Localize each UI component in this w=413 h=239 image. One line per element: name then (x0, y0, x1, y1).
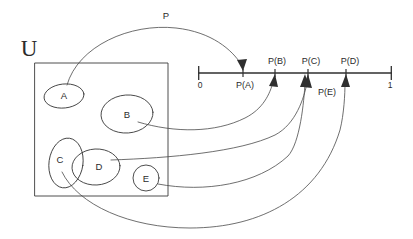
tick-label-pd: P(D) (341, 56, 360, 66)
set-label-b: B (124, 109, 130, 120)
set-label-a: A (61, 90, 68, 101)
set-label-e: E (143, 173, 149, 184)
tick-label-pe: P(E) (318, 87, 336, 97)
mapping-curve-d (111, 83, 307, 160)
set-label-d: D (96, 161, 103, 172)
tick-label-pb: P(B) (268, 56, 286, 66)
universe-label: U (21, 36, 38, 61)
axis-start-label: 0 (198, 80, 203, 90)
mapping-arrowhead-b (269, 74, 278, 87)
probability-mapping-diagram: U P A B C D E 0 1 P(A) P(B) P(C) P(D) P(… (0, 0, 413, 239)
map-label: P (163, 10, 169, 21)
axis-end-label: 1 (388, 80, 393, 90)
mapping-arrowhead-a (237, 59, 247, 71)
diagram-canvas: U P A B C D E 0 1 P(A) P(B) P(C) P(D) P(… (0, 0, 413, 239)
set-label-c: C (57, 154, 64, 165)
tick-label-pc: P(C) (302, 56, 321, 66)
mapping-curve-e (158, 83, 305, 187)
set-ellipse-c (46, 136, 87, 190)
tick-label-pa: P(A) (236, 80, 254, 90)
mapping-arrowhead-c (341, 74, 350, 87)
mapping-curve-a (67, 27, 241, 85)
